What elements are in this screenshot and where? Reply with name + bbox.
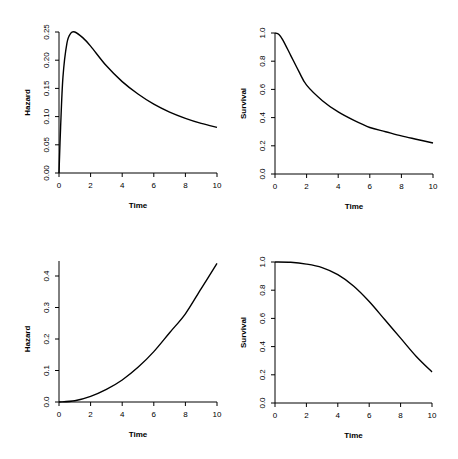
y-tick-label: 0.1 xyxy=(42,364,51,376)
y-tick-label: 0.00 xyxy=(42,165,51,181)
y-tick-label: 1.0 xyxy=(258,27,267,39)
y-tick-label: 0.2 xyxy=(258,140,267,152)
y-tick-label: 0.10 xyxy=(42,108,51,124)
chart-canvas: 02468100.000.050.100.150.200.25TimeHazar… xyxy=(0,0,458,459)
x-tick-label: 2 xyxy=(304,182,309,191)
x-axis-label: Time xyxy=(344,431,363,440)
x-tick-label: 8 xyxy=(183,181,188,190)
y-tick-label: 0.15 xyxy=(42,80,51,96)
x-tick-label: 8 xyxy=(398,411,403,420)
x-tick-label: 8 xyxy=(399,182,404,191)
x-tick-label: 10 xyxy=(428,411,437,420)
x-tick-label: 0 xyxy=(273,182,278,191)
y-tick-label: 0.0 xyxy=(258,168,267,180)
x-tick-label: 4 xyxy=(120,181,125,190)
y-tick-label: 1.0 xyxy=(258,256,267,268)
y-tick-label: 0.6 xyxy=(258,83,267,95)
x-tick-label: 4 xyxy=(120,410,125,419)
x-tick-label: 0 xyxy=(273,411,278,420)
y-tick-label: 0.6 xyxy=(258,312,267,324)
y-tick-label: 0.4 xyxy=(258,111,267,123)
x-tick-label: 0 xyxy=(57,181,62,190)
chart-panel-4: 02468100.00.20.40.60.81.0TimeSurvival xyxy=(239,256,437,440)
x-tick-label: 10 xyxy=(213,181,222,190)
chart-panel-1: 02468100.000.050.100.150.200.25TimeHazar… xyxy=(23,24,222,210)
x-tick-label: 0 xyxy=(57,410,62,419)
x-tick-label: 6 xyxy=(367,411,372,420)
x-tick-label: 4 xyxy=(336,411,341,420)
x-tick-label: 6 xyxy=(152,181,157,190)
x-tick-label: 6 xyxy=(368,182,373,191)
x-tick-label: 10 xyxy=(213,410,222,419)
x-tick-label: 4 xyxy=(336,182,341,191)
y-tick-label: 0.8 xyxy=(258,284,267,296)
y-tick-label: 0.4 xyxy=(258,340,267,352)
chart-panel-2: 02468100.00.20.40.60.81.0TimeSurvival xyxy=(239,27,438,211)
y-tick-label: 0.2 xyxy=(42,333,51,345)
x-tick-label: 2 xyxy=(88,181,93,190)
chart-panel-3: 02468100.00.10.20.30.4TimeHazard xyxy=(23,261,222,439)
data-line xyxy=(59,263,217,402)
x-axis-label: Time xyxy=(129,201,148,210)
data-line xyxy=(59,32,217,173)
y-tick-label: 0.3 xyxy=(42,301,51,313)
y-axis-label: Hazard xyxy=(23,326,32,353)
x-tick-label: 8 xyxy=(183,410,188,419)
y-tick-label: 0.0 xyxy=(258,397,267,409)
y-tick-label: 0.05 xyxy=(42,136,51,152)
x-axis-label: Time xyxy=(345,202,364,211)
x-axis-label: Time xyxy=(129,430,148,439)
y-tick-label: 0.4 xyxy=(42,270,51,282)
y-tick-label: 0.25 xyxy=(42,24,51,40)
y-axis-label: Survival xyxy=(239,88,248,119)
x-tick-label: 10 xyxy=(429,182,438,191)
y-tick-label: 0.20 xyxy=(42,52,51,68)
y-axis-label: Hazard xyxy=(23,89,32,116)
y-tick-label: 0.8 xyxy=(258,55,267,67)
x-tick-label: 2 xyxy=(88,410,93,419)
y-tick-label: 0.2 xyxy=(258,369,267,381)
data-line xyxy=(275,262,432,372)
x-tick-label: 6 xyxy=(152,410,157,419)
y-axis-label: Survival xyxy=(239,317,248,348)
x-tick-label: 2 xyxy=(304,411,309,420)
y-tick-label: 0.0 xyxy=(42,396,51,408)
data-line xyxy=(275,33,433,143)
